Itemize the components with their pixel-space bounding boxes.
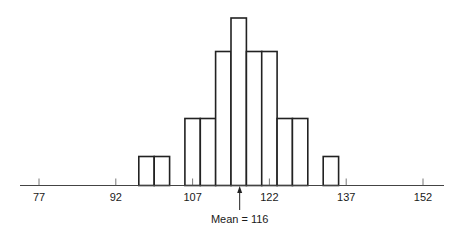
- mean-label: Mean = 116: [211, 213, 269, 225]
- histogram-bar: [139, 157, 154, 186]
- histogram-bar: [231, 18, 246, 186]
- histogram-bar: [216, 52, 231, 186]
- histogram-bar: [246, 52, 261, 186]
- histogram-bars: [139, 18, 339, 186]
- histogram-bar: [277, 119, 292, 186]
- x-tick-label: 92: [110, 191, 122, 203]
- histogram-bar: [154, 157, 169, 186]
- x-tick-label: 77: [33, 191, 45, 203]
- x-tick-label: 137: [337, 191, 355, 203]
- x-tick-label: 107: [183, 191, 201, 203]
- histogram-bar: [185, 119, 200, 186]
- arrow-up-icon: [237, 186, 242, 193]
- x-tick-label: 152: [414, 191, 432, 203]
- histogram-bar: [200, 119, 215, 186]
- histogram-bar: [262, 52, 277, 186]
- histogram-chart: 7792107122137152 Mean = 116: [0, 0, 463, 233]
- histogram-bar: [292, 119, 307, 186]
- histogram-bar: [323, 157, 338, 186]
- x-tick-label: 122: [260, 191, 278, 203]
